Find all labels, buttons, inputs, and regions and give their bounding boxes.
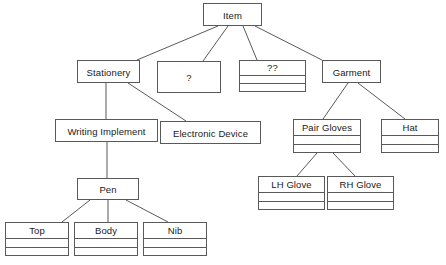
class-node-label-hat: Hat [382, 120, 438, 136]
class-node-hat[interactable]: Hat [381, 119, 439, 153]
class-node-item[interactable]: Item [203, 3, 262, 26]
class-node-compartment-top-2 [6, 247, 68, 256]
class-node-stationery[interactable]: Stationery [77, 60, 140, 83]
class-node-compartment-lh-glove-1 [259, 193, 324, 201]
class-node-compartment-hat-2 [382, 144, 438, 153]
class-node-unknown-one[interactable]: ? [157, 61, 221, 93]
class-node-writing-implement[interactable]: Writing Implement [55, 119, 158, 142]
class-node-label-lh-glove: LH Glove [259, 177, 324, 193]
connector-item-garment [255, 26, 322, 60]
class-node-garment[interactable]: Garment [322, 60, 381, 83]
connector-pen-top [62, 200, 90, 222]
class-node-label-pair-gloves: Pair Gloves [294, 120, 360, 136]
connector-pair-gloves-lh [297, 153, 317, 176]
class-node-label-unknown-one: ? [158, 62, 220, 94]
class-node-lh-glove[interactable]: LH Glove [258, 176, 325, 210]
class-node-compartment-rh-glove-1 [328, 193, 393, 201]
class-node-pen[interactable]: Pen [77, 178, 139, 200]
connector-item-unknown-two [243, 26, 257, 60]
class-node-top[interactable]: Top [5, 222, 69, 256]
class-node-label-nib: Nib [144, 223, 206, 239]
class-node-label-top: Top [6, 223, 68, 239]
class-node-compartment-unknown-two-2 [240, 83, 305, 91]
class-node-compartment-body-1 [75, 239, 137, 247]
class-node-pair-gloves[interactable]: Pair Gloves [293, 119, 361, 153]
class-node-compartment-nib-2 [144, 247, 206, 256]
class-node-compartment-body-2 [75, 247, 137, 256]
connector-garment-hat [358, 83, 405, 119]
class-node-label-unknown-two: ?? [240, 61, 305, 76]
connector-pen-nib [126, 200, 168, 222]
connector-garment-pair-gloves [323, 83, 348, 119]
class-node-body[interactable]: Body [74, 222, 138, 256]
class-node-compartment-pair-gloves-2 [294, 144, 360, 153]
class-node-label-stationery: Stationery [78, 61, 139, 84]
class-node-compartment-hat-1 [382, 136, 438, 144]
class-node-label-garment: Garment [323, 61, 380, 84]
class-hierarchy-diagram: ItemStationery???GarmentWriting Implemen… [0, 0, 446, 265]
class-node-compartment-top-1 [6, 239, 68, 247]
class-node-compartment-rh-glove-2 [328, 201, 393, 210]
class-node-unknown-two[interactable]: ?? [239, 60, 306, 92]
class-node-compartment-nib-1 [144, 239, 206, 247]
class-node-label-rh-glove: RH Glove [328, 177, 393, 193]
class-node-compartment-unknown-two-1 [240, 76, 305, 83]
class-node-label-body: Body [75, 223, 137, 239]
class-node-rh-glove[interactable]: RH Glove [327, 176, 394, 210]
connector-pair-gloves-rh [333, 153, 355, 176]
class-node-compartment-lh-glove-2 [259, 201, 324, 210]
connector-item-unknown-one [203, 26, 228, 61]
class-node-nib[interactable]: Nib [143, 222, 207, 256]
class-node-compartment-pair-gloves-1 [294, 136, 360, 144]
class-node-label-writing-implement: Writing Implement [56, 120, 157, 143]
class-node-label-pen: Pen [78, 179, 138, 201]
class-node-label-electronic-device: Electronic Device [161, 122, 260, 145]
connector-item-stationery [137, 26, 218, 60]
class-node-electronic-device[interactable]: Electronic Device [160, 121, 261, 144]
class-node-label-item: Item [204, 4, 261, 27]
